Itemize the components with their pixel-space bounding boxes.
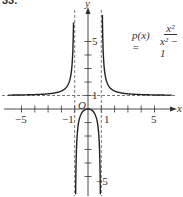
x-tick-label-neg1: −1 — [62, 114, 74, 125]
y-axis-label: y — [85, 0, 90, 9]
formula-numerator: x² — [164, 22, 176, 35]
x-axis-label: x — [177, 103, 182, 114]
x-tick-label-5: 5 — [151, 114, 157, 125]
function-label: p(x) = — [132, 29, 155, 53]
y-tick-label-5: 5 — [92, 36, 98, 47]
curve-left-branch — [8, 22, 73, 95]
x-tick-label-1: 1 — [104, 114, 110, 125]
origin-label: O — [78, 100, 86, 111]
x-tick-label-neg5: −5 — [15, 114, 27, 125]
x-axis-arrow-icon — [170, 107, 177, 112]
y-tick-label-1: 1 — [92, 90, 98, 101]
function-formula: p(x) = x² x² − 1 — [132, 22, 183, 59]
y-tick-label-neg5: −5 — [96, 176, 108, 187]
formula-denominator: x² − 1 — [158, 35, 183, 59]
